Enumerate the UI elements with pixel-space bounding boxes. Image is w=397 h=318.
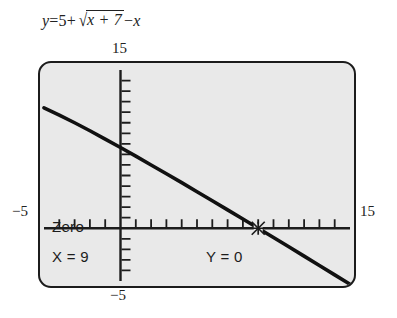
axis-label-ymin: −5 xyxy=(110,287,126,304)
equation-constant: 5 xyxy=(59,12,67,29)
equation-caption: y=5+√x + 7−x xyxy=(42,10,141,31)
equation-radicand: x + 7 xyxy=(86,10,124,29)
equation-equals: = xyxy=(49,12,58,29)
function-curve xyxy=(44,108,350,284)
readout-y-value: Y = 0 xyxy=(206,248,243,265)
axis-label-xmax: 15 xyxy=(360,203,375,220)
equation-term-x: x xyxy=(133,12,140,29)
readout-x-value: X = 9 xyxy=(52,248,89,265)
zero-cursor-crosshair-icon xyxy=(252,222,265,235)
axes-group xyxy=(44,70,350,281)
axis-label-ymax: 15 xyxy=(112,40,127,57)
equation-minus: − xyxy=(124,12,133,29)
y-axis-ticks xyxy=(122,81,131,271)
axis-label-xmin: −5 xyxy=(12,203,28,220)
equation-plus: + xyxy=(67,12,76,29)
equation-radical: √x + 7 xyxy=(76,10,124,31)
x-axis-ticks xyxy=(59,219,334,227)
graphing-calculator-screen: Zero X = 9 Y = 0 xyxy=(38,61,356,288)
readout-zero-label: Zero xyxy=(52,218,84,235)
